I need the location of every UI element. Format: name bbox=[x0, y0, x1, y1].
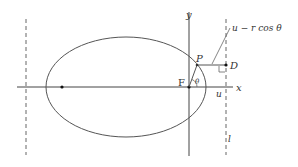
label-distance: u − r cos θ bbox=[232, 23, 282, 33]
right-angle-marker bbox=[219, 66, 225, 72]
point-P bbox=[196, 64, 199, 67]
label-D: D bbox=[229, 60, 238, 71]
label-F: F bbox=[178, 77, 185, 88]
label-P: P bbox=[195, 53, 203, 64]
point-D bbox=[224, 63, 227, 66]
leader-line bbox=[212, 28, 230, 64]
label-u: u bbox=[216, 89, 222, 99]
label-y: y bbox=[185, 9, 192, 20]
label-x: x bbox=[236, 82, 242, 93]
focus-left bbox=[60, 85, 63, 88]
label-l: l bbox=[228, 134, 231, 144]
label-theta: θ bbox=[195, 78, 200, 86]
ellipse-focus-directrix-diagram: y x F P D θ u l u − r cos θ bbox=[0, 0, 298, 167]
